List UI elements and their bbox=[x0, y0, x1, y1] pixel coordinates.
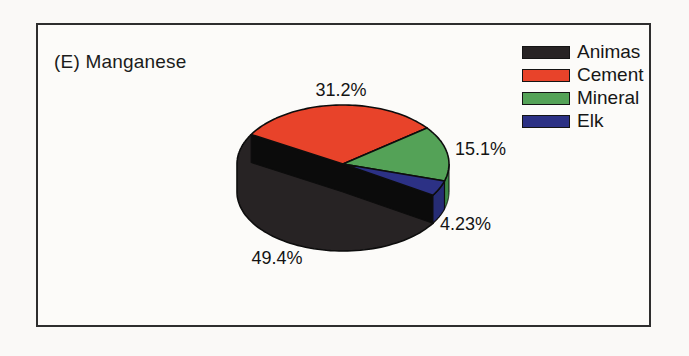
legend-label-cement: Cement bbox=[577, 68, 644, 82]
legend-item-animas: Animas bbox=[522, 45, 644, 59]
legend-swatch-cement-icon bbox=[522, 69, 570, 82]
legend-swatch-mineral-icon bbox=[522, 92, 570, 105]
pie-label-elk: 4.23% bbox=[440, 214, 491, 234]
pie-label-animas: 49.4% bbox=[251, 248, 302, 268]
figure-panel: (E) Manganese 49.4%31.2%15.1%4.23% Anima… bbox=[0, 0, 689, 356]
legend-swatch-elk-icon bbox=[522, 115, 570, 128]
legend-label-mineral: Mineral bbox=[577, 91, 639, 105]
legend-swatch-animas-icon bbox=[522, 46, 570, 59]
legend-item-cement: Cement bbox=[522, 68, 644, 82]
legend-item-elk: Elk bbox=[522, 114, 644, 128]
legend-label-animas: Animas bbox=[577, 45, 640, 59]
legend-label-elk: Elk bbox=[577, 114, 603, 128]
pie-label-cement: 31.2% bbox=[315, 80, 366, 100]
pie-label-mineral: 15.1% bbox=[455, 139, 506, 159]
legend-item-mineral: Mineral bbox=[522, 91, 644, 105]
legend: Animas Cement Mineral Elk bbox=[522, 45, 644, 137]
